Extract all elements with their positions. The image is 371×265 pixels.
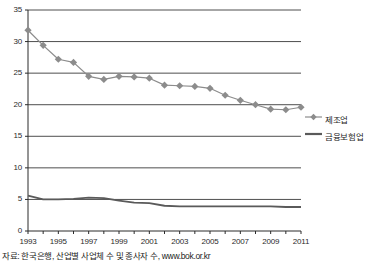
data-point-marker bbox=[282, 106, 289, 113]
series-line-1 bbox=[28, 196, 301, 207]
x-axis-tick-label: 2007 bbox=[227, 237, 253, 246]
x-axis-tick-label: 2009 bbox=[258, 237, 284, 246]
y-axis-tick-label: 15 bbox=[4, 131, 22, 140]
data-point-marker bbox=[222, 92, 229, 99]
line-chart-canvas bbox=[0, 0, 371, 265]
source-caption: 자료: 한국은행, 산업별 사업체 수 및 종사자 수, www.bok.or.… bbox=[2, 249, 210, 261]
x-axis-tick-label: 2011 bbox=[288, 237, 314, 246]
legend-label-manufacturing: 제조업 bbox=[325, 113, 348, 125]
y-axis-tick-label: 35 bbox=[4, 5, 22, 14]
data-point-marker bbox=[237, 97, 244, 104]
data-point-marker bbox=[191, 83, 198, 90]
data-point-marker bbox=[206, 85, 213, 92]
data-point-marker bbox=[176, 82, 183, 89]
chart-container: 05101520253035 1993199519971999200120032… bbox=[0, 0, 371, 265]
data-point-marker bbox=[267, 106, 274, 113]
legend-label-finance-insurance: 금융보험업 bbox=[325, 130, 364, 142]
legend-diamond-marker bbox=[310, 114, 316, 120]
x-axis-tick-label: 2003 bbox=[167, 237, 193, 246]
data-series-group bbox=[24, 27, 304, 207]
x-axis-tick-label: 1995 bbox=[45, 237, 71, 246]
x-axis-tick-label: 1993 bbox=[15, 237, 41, 246]
data-point-marker bbox=[131, 73, 138, 80]
data-point-marker bbox=[115, 73, 122, 80]
y-axis-tick-label: 10 bbox=[4, 163, 22, 172]
x-axis-tick-label: 2001 bbox=[136, 237, 162, 246]
y-axis-tick-label: 25 bbox=[4, 68, 22, 77]
y-axis-tick-label: 5 bbox=[4, 194, 22, 203]
x-axis-tick-label: 1997 bbox=[76, 237, 102, 246]
x-axis-tick-label: 1999 bbox=[106, 237, 132, 246]
y-axis-tick-label: 20 bbox=[4, 100, 22, 109]
series-line-0 bbox=[28, 30, 301, 110]
data-point-marker bbox=[146, 75, 153, 82]
y-axis-tick-label: 0 bbox=[4, 226, 22, 235]
gridlines-group bbox=[28, 10, 301, 199]
y-axis-tick-label: 30 bbox=[4, 37, 22, 46]
data-point-marker bbox=[100, 76, 107, 83]
legend-markers-group bbox=[305, 114, 322, 134]
data-point-marker bbox=[161, 82, 168, 89]
data-point-marker bbox=[252, 101, 259, 108]
x-axis-tick-label: 2005 bbox=[197, 237, 223, 246]
